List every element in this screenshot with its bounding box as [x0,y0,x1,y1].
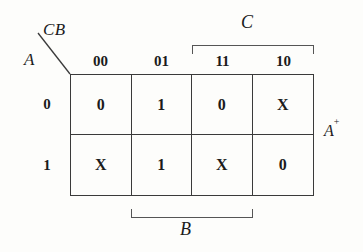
output-label: A+ [324,121,339,140]
bracket-label-c: C [241,12,253,33]
column-header-00: 00 [70,53,131,70]
output-label-superscript: + [334,116,340,127]
kmap-cell-r1c2: X [192,135,253,195]
kmap-cell-r1c3: 0 [253,135,314,195]
kmap-cell-r0c3: X [253,75,314,135]
kmap-grid: 0 1 0 X X 1 X 0 [70,74,314,196]
column-header-01: 01 [131,53,192,70]
kmap-cell-r1c0: X [71,135,132,195]
row-header-1: 1 [34,157,60,174]
kmap-cell-r0c0: 0 [71,75,132,135]
corner-top-label: CB [43,20,66,40]
row-header-0: 0 [34,96,60,113]
kmap-cell-r0c1: 1 [132,75,193,135]
bracket-label-b: B [180,219,191,240]
bracket-b [131,209,253,218]
column-header-11: 11 [192,53,253,70]
kmap-cell-r0c2: 0 [192,75,253,135]
output-label-text: A [324,122,334,139]
column-header-10: 10 [253,53,314,70]
corner-side-label: A [24,50,34,70]
kmap-cell-r1c1: 1 [132,135,193,195]
karnaugh-map-figure: CB A A+ C B 00 01 11 10 0 1 0 1 0 X X 1 … [0,0,363,252]
